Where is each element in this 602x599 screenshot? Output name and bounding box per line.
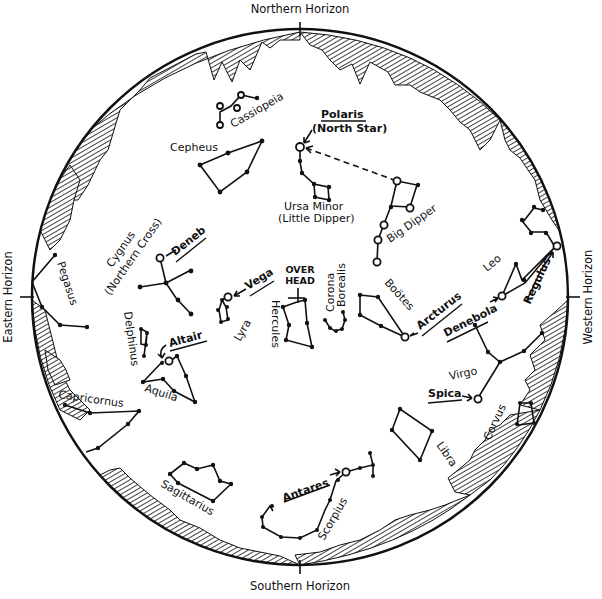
constellation-aquila: Aquila <box>141 354 197 405</box>
svg-text:Vega: Vega <box>243 265 276 292</box>
eastern-horizon-label: Eastern Horizon <box>1 251 15 342</box>
constellation-scorpius: Scorpius <box>260 451 375 543</box>
constellation-libra: Libra <box>390 407 460 469</box>
svg-text:OVER: OVER <box>286 264 316 275</box>
svg-text:(North Star): (North Star) <box>312 122 387 135</box>
star-altair: Altair <box>158 328 207 358</box>
constellation-hercules: Hercules <box>269 298 314 349</box>
constellation-cepheus: Cepheus <box>170 139 264 195</box>
svg-text:Lyra: Lyra <box>231 317 254 343</box>
star-vega: Vega <box>234 265 276 296</box>
svg-text:HEAD: HEAD <box>285 275 315 286</box>
constellation-capricornus: Capricornus <box>58 388 142 452</box>
constellation-big-dipper: Big Dipper <box>373 177 439 265</box>
svg-text:Aquila: Aquila <box>143 381 179 404</box>
svg-text:Cepheus: Cepheus <box>170 141 218 154</box>
constellation-bootes: Boötes <box>358 276 417 340</box>
svg-text:Spica: Spica <box>428 387 462 400</box>
svg-text:Pegasus: Pegasus <box>54 260 80 307</box>
svg-text:Virgo: Virgo <box>448 364 479 383</box>
constellation-lyra: Lyra <box>216 293 254 343</box>
pointer-line <box>306 148 397 181</box>
svg-text:Hercules: Hercules <box>269 300 282 348</box>
svg-text:Polaris: Polaris <box>321 108 364 121</box>
star-spica: Spica <box>428 387 472 403</box>
svg-text:Leo: Leo <box>481 252 504 275</box>
svg-text:Scorpius: Scorpius <box>315 495 350 542</box>
svg-text:Libra: Libra <box>434 439 460 469</box>
constellation-ursa-minor: Ursa Minor (Little Dipper) <box>278 143 355 225</box>
constellation-corona-borealis: Corona Borealis <box>323 263 348 333</box>
star-deneb: Deneb <box>166 224 208 262</box>
svg-text:Borealis: Borealis <box>335 263 348 307</box>
southern-horizon-label: Southern Horizon <box>250 579 350 593</box>
constellation-cassiopeia: Cassiopeia <box>217 90 286 131</box>
constellation-leo: Leo <box>481 205 561 300</box>
western-horizon-label: Western Horizon <box>581 250 595 345</box>
northern-horizon-label: Northern Horizon <box>251 2 350 16</box>
star-chart: Northern Horizon Southern Horizon Easter… <box>0 0 602 599</box>
svg-text:(Little Dipper): (Little Dipper) <box>278 212 355 225</box>
svg-text:Boötes: Boötes <box>382 276 417 313</box>
overhead-marker: OVER HEAD <box>285 264 315 303</box>
constellation-cygnus: Cygnus (Northern Cross) <box>102 216 194 317</box>
star-polaris: Polaris (North Star) <box>304 108 387 143</box>
constellation-delphinus: Delphinus <box>121 311 149 368</box>
svg-text:Delphinus: Delphinus <box>121 311 142 368</box>
